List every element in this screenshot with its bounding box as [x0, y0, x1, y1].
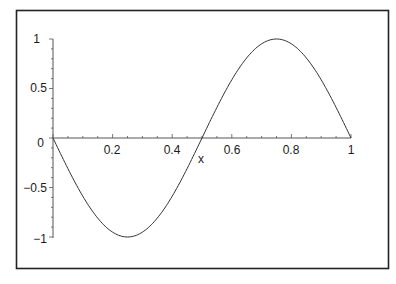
x-tick-label-0.4: 0.4 — [164, 143, 181, 157]
x-tick-label-1: 1 — [348, 143, 355, 157]
tick-labels: 1 0.5 0 −0.5 −1 0.2 0.4 0.6 0.8 1 x — [23, 32, 354, 246]
plot-frame — [17, 11, 389, 269]
x-tick-label-0.6: 0.6 — [224, 143, 241, 157]
plot-figure: 1 0.5 0 −0.5 −1 0.2 0.4 0.6 0.8 1 x — [0, 0, 396, 284]
y-tick-label-0.5: 0.5 — [30, 81, 47, 95]
x-tick-label-0.2: 0.2 — [104, 143, 121, 157]
y-tick-label-1: 1 — [33, 32, 40, 46]
axes — [49, 39, 351, 238]
y-tick-label-0: 0 — [37, 136, 44, 150]
y-tick-label-neg1: −1 — [33, 232, 47, 246]
y-tick-label-neg0.5: −0.5 — [23, 181, 47, 195]
x-tick-label-0.8: 0.8 — [283, 143, 300, 157]
x-axis-label: x — [198, 152, 204, 166]
